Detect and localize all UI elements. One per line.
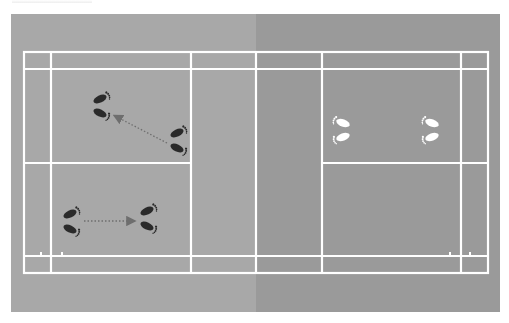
cropped-caption-sliver [12, 0, 92, 3]
court-diagram [11, 14, 500, 312]
